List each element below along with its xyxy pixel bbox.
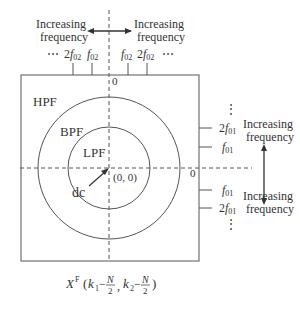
top-left-caption-line2: frequency [40,30,88,44]
top-right-caption-line1: Increasing [134,17,184,31]
top-tick-label-4: 2f02 [137,47,154,62]
svg-text:X: X [65,276,75,291]
svg-text:): ) [152,276,156,291]
right-bottom-ellipsis: ⋮ [225,217,237,231]
right-tick-label-3: f01 [222,183,233,198]
formula: X F ( k 1 − N 2 , k 2 − N 2 ) [65,274,156,296]
svg-text:,: , [117,279,120,293]
svg-text:N: N [106,274,115,285]
label-bpf: BPF [60,124,83,139]
label-dc: dc [72,185,85,200]
top-zero-label: 0 [112,75,118,87]
right-tick-label-2: f01 [222,140,233,155]
top-left-ellipsis: ⋯ [47,47,59,61]
svg-text:−: − [134,277,141,291]
top-right-caption-line2: frequency [137,30,185,44]
right-top-caption-line1: Increasing [243,117,293,131]
right-bottom-caption-line1: Increasing [243,189,293,203]
svg-text:−: − [99,277,106,291]
top-tick-label-3: f02 [121,47,132,62]
right-tick-label-1: 2f01 [219,121,236,136]
right-tick-label-4: 2f01 [219,201,236,216]
label-lpf: LPF [83,145,105,160]
top-right-ellipsis: ⋯ [162,47,174,61]
right-top-caption-line2: frequency [246,130,294,144]
svg-text:2: 2 [108,286,113,296]
svg-text:k: k [123,276,129,291]
frequency-domain-diagram: HPF BPF LPF dc (0, 0) 0 0 Increasing fre… [0,0,300,310]
label-origin: (0, 0) [113,171,137,184]
svg-text:N: N [141,274,150,285]
arrowhead-left-icon [87,28,94,34]
right-zero-label: 0 [190,167,196,179]
svg-text:2: 2 [143,286,148,296]
right-top-ellipsis: ⋮ [225,102,237,116]
arrowhead-up-icon [261,144,267,151]
svg-text:F: F [75,275,80,284]
svg-text:(: ( [83,276,87,291]
top-tick-label-1: 2f02 [64,47,81,62]
label-hpf: HPF [33,94,57,109]
right-bottom-caption-line2: frequency [246,202,294,216]
svg-text:k: k [88,276,94,291]
top-tick-label-2: f02 [87,47,98,62]
top-left-caption-line1: Increasing [36,17,86,31]
